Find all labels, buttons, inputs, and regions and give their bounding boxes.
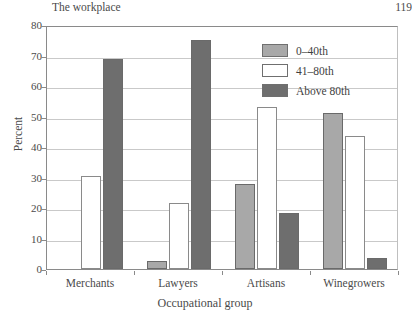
legend-label: Above 80th bbox=[296, 85, 350, 97]
legend-item: 0–40th bbox=[262, 42, 386, 59]
chart-legend: 0–40th41–80thAbove 80th bbox=[262, 42, 386, 102]
x-axis-category-label: Lawyers bbox=[134, 277, 222, 289]
x-axis-tick-mark bbox=[310, 271, 311, 275]
bar bbox=[169, 203, 189, 269]
bar bbox=[257, 107, 277, 269]
x-axis-category-label: Merchants bbox=[46, 277, 134, 289]
x-axis-tick-mark bbox=[46, 271, 47, 275]
y-axis-tick-label: 20 bbox=[12, 203, 42, 214]
y-axis-tick-label: 60 bbox=[12, 81, 42, 92]
bar bbox=[103, 59, 123, 269]
bar bbox=[81, 176, 101, 269]
bar bbox=[367, 258, 387, 269]
bar bbox=[235, 184, 255, 269]
y-axis-tick-label: 70 bbox=[12, 51, 42, 62]
x-axis-tick-mark bbox=[134, 271, 135, 275]
y-axis-tick-label: 40 bbox=[12, 142, 42, 153]
x-axis-tick-mark bbox=[398, 271, 399, 275]
x-axis-category-label: Winegrowers bbox=[310, 277, 398, 289]
legend-label: 41–80th bbox=[296, 65, 334, 77]
x-axis-title: Occupational group bbox=[0, 296, 410, 311]
legend-swatch bbox=[262, 84, 288, 97]
y-axis-tick-label: 80 bbox=[12, 20, 42, 31]
y-axis-title: Percent bbox=[12, 94, 24, 174]
legend-label: 0–40th bbox=[296, 45, 328, 57]
y-axis-tick-label: 0 bbox=[12, 264, 42, 275]
bar bbox=[323, 113, 343, 269]
y-axis-tick-label: 50 bbox=[12, 112, 42, 123]
y-axis-tick-label: 10 bbox=[12, 234, 42, 245]
bar bbox=[279, 213, 299, 269]
legend-item: Above 80th bbox=[262, 82, 386, 99]
y-axis-tick-label: 30 bbox=[12, 173, 42, 184]
legend-item: 41–80th bbox=[262, 62, 386, 79]
bar bbox=[147, 261, 167, 269]
bar bbox=[191, 40, 211, 269]
gridline bbox=[47, 119, 397, 120]
legend-swatch bbox=[262, 64, 288, 77]
legend-swatch bbox=[262, 44, 288, 57]
bar bbox=[345, 136, 365, 269]
x-axis-category-label: Artisans bbox=[222, 277, 310, 289]
x-axis-tick-mark bbox=[222, 271, 223, 275]
